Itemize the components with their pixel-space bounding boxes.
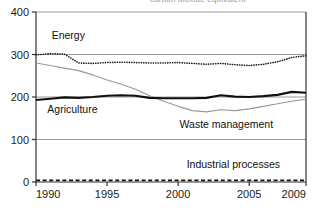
annotation-agriculture: Agriculture: [47, 103, 97, 115]
line-chart: 0100200300400 19901995200020052009 Energ…: [0, 0, 317, 210]
y-tick-label-200: 200: [11, 91, 29, 103]
y-tick-label-300: 300: [11, 49, 29, 61]
x-tick-label-2009: 2009: [282, 188, 306, 200]
x-axis: 19901995200020052009: [36, 182, 306, 200]
x-tick-label-2000: 2000: [166, 188, 190, 200]
annotation-energy: Energy: [52, 29, 86, 41]
y-axis: 0100200300400: [11, 6, 36, 188]
annotation-waste-management: Waste management: [180, 118, 274, 130]
x-tick-label-1995: 1995: [95, 188, 119, 200]
chart-title-clipped: carbon dioxide equivalent: [150, 0, 246, 4]
y-tick-label-100: 100: [11, 134, 29, 146]
x-tick-label-1990: 1990: [36, 188, 60, 200]
chart-container: carbon dioxide equivalent 0100200300400 …: [0, 0, 317, 210]
annotation-industrial-processes: Industrial processes: [187, 158, 280, 170]
y-tick-label-400: 400: [11, 6, 29, 18]
y-tick-label-0: 0: [23, 176, 29, 188]
x-tick-label-2005: 2005: [237, 188, 261, 200]
